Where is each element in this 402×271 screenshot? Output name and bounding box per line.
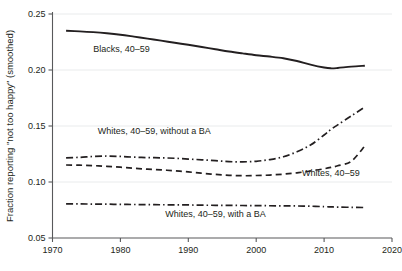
- y-axis-title: Fraction reporting "not too happy" (smoo…: [4, 30, 15, 222]
- x-tick-label: 1990: [178, 245, 198, 255]
- series-label-1: Blacks, 40–59: [93, 44, 150, 54]
- x-tick-label: 1980: [110, 245, 130, 255]
- x-tick-label: 2000: [246, 245, 266, 255]
- x-tick-label: 2020: [382, 245, 402, 255]
- x-tick-label: 1970: [42, 245, 62, 255]
- series-label-2: Whites, 40–59, without a BA: [98, 126, 211, 136]
- x-tick-label: 2010: [314, 245, 334, 255]
- y-tick-label: 0.05: [28, 233, 46, 243]
- line-chart: 0.050.100.150.200.25 1970198019902000201…: [0, 0, 402, 271]
- y-tick-label: 0.15: [28, 121, 46, 131]
- y-tick-label: 0.10: [28, 177, 46, 187]
- chart-figure: 0.050.100.150.200.25 1970198019902000201…: [0, 0, 402, 271]
- series-label-4: Whites, 40–59, with a BA: [165, 209, 266, 219]
- series-label-3: Whites, 40–59: [302, 168, 360, 178]
- y-tick-label: 0.20: [28, 65, 46, 75]
- y-tick-label: 0.25: [28, 9, 46, 19]
